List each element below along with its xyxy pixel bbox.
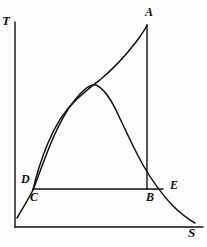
point-label-e: E (170, 179, 178, 191)
point-label-d: D (21, 173, 30, 185)
entropy-axis-label: S (188, 226, 195, 239)
upper-boundary-curve (33, 25, 147, 190)
point-label-c: C (30, 191, 38, 203)
temperature-axis-label: T (2, 14, 10, 27)
axes-group (15, 22, 203, 227)
point-label-a: A (145, 6, 153, 18)
point-label-b: B (146, 191, 154, 203)
ts-diagram-figure: T S A D C B E (0, 0, 207, 247)
ts-diagram-canvas (0, 0, 207, 247)
